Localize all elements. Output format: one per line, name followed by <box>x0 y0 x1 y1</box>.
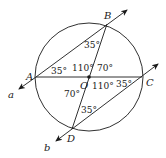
label-point-d: D <box>66 133 75 144</box>
label-line-a: a <box>8 89 14 100</box>
angle-boc: 70° <box>97 63 113 73</box>
angle-odc: 35° <box>81 105 97 115</box>
center-point-o <box>87 75 91 79</box>
label-point-a: A <box>25 71 33 82</box>
label-point-b: B <box>103 10 111 21</box>
line-b-forward <box>72 64 158 129</box>
geometry-diagram: A B C D O a b 35° 35° 110° 70° 70° 110° … <box>0 0 166 158</box>
angle-aod: 70° <box>64 89 80 99</box>
label-line-b: b <box>44 142 50 153</box>
angle-abo: 35° <box>84 40 100 50</box>
angle-cod: 110° <box>92 81 114 91</box>
label-point-c: C <box>146 77 154 88</box>
label-point-o: O <box>80 80 88 91</box>
diagram-canvas: A B C D O a b 35° 35° 110° 70° 70° 110° … <box>0 0 166 158</box>
angle-ocd: 35° <box>116 79 132 89</box>
angle-bao: 35° <box>51 66 67 76</box>
angle-aob: 110° <box>72 63 94 73</box>
